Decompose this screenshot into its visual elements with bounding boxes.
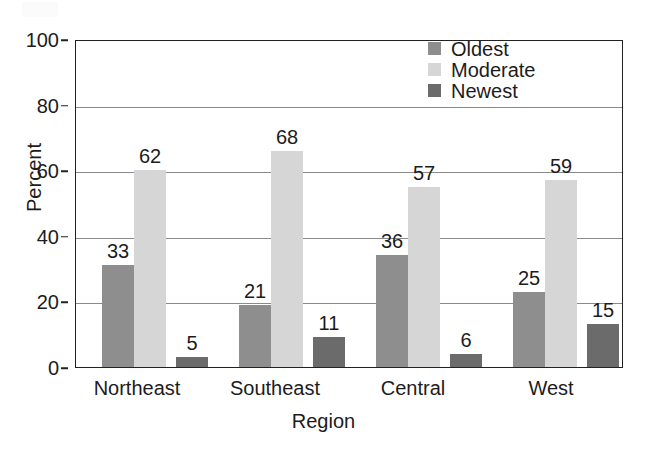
legend-item-newest[interactable]: Newest bbox=[428, 80, 578, 101]
x-tick-label-southeast: Southeast bbox=[230, 377, 320, 400]
y-axis-title: Percent bbox=[23, 108, 46, 248]
bar-west-newest bbox=[587, 324, 619, 367]
legend-swatch-icon-moderate bbox=[428, 63, 441, 76]
x-tick-label-central: Central bbox=[381, 377, 445, 400]
bar-value-label-west-newest: 15 bbox=[592, 299, 614, 322]
bar-value-label-northeast-moderate: 62 bbox=[139, 145, 161, 168]
bar-west-oldest bbox=[513, 292, 545, 367]
bar-southeast-moderate bbox=[271, 151, 303, 367]
x-axis: Northeast Southeast Central West bbox=[75, 377, 623, 405]
y-tick-mark-20 bbox=[61, 302, 68, 304]
y-tick-label-20: 20 bbox=[37, 291, 59, 314]
bar-northeast-oldest bbox=[102, 265, 134, 367]
legend-item-oldest[interactable]: Oldest bbox=[428, 38, 578, 59]
y-tick-mark-40 bbox=[61, 236, 68, 238]
bar-central-oldest bbox=[376, 255, 408, 367]
y-tick-mark-80 bbox=[61, 105, 68, 107]
legend-item-moderate[interactable]: Moderate bbox=[428, 59, 578, 80]
bar-value-label-west-moderate: 59 bbox=[550, 155, 572, 178]
bar-value-label-southeast-moderate: 68 bbox=[276, 126, 298, 149]
bar-value-label-northeast-oldest: 33 bbox=[107, 240, 129, 263]
bar-west-moderate bbox=[545, 180, 577, 367]
x-tick-label-northeast: Northeast bbox=[94, 377, 181, 400]
bar-chart-figure: 100 80 60 40 20 0 Percent 33625216811365… bbox=[0, 0, 647, 459]
y-tick-mark-0 bbox=[61, 367, 68, 369]
y-tick-label-100: 100 bbox=[26, 29, 59, 52]
x-tick-label-west: West bbox=[528, 377, 573, 400]
legend-label-moderate: Moderate bbox=[451, 60, 536, 80]
bar-value-label-northeast-newest: 5 bbox=[186, 332, 197, 355]
x-axis-title: Region bbox=[0, 410, 647, 433]
legend-swatch-icon-oldest bbox=[428, 42, 441, 55]
bar-northeast-moderate bbox=[134, 170, 166, 367]
bar-southeast-oldest bbox=[239, 305, 271, 367]
bar-value-label-central-newest: 6 bbox=[460, 329, 471, 352]
legend: Oldest Moderate Newest bbox=[428, 38, 578, 101]
bar-central-moderate bbox=[408, 187, 440, 367]
bar-value-label-southeast-newest: 11 bbox=[319, 312, 340, 335]
legend-swatch-icon-newest bbox=[428, 84, 441, 97]
y-tick-mark-100 bbox=[61, 39, 68, 41]
bar-southeast-newest bbox=[313, 337, 345, 367]
bar-central-newest bbox=[450, 354, 482, 367]
legend-label-newest: Newest bbox=[451, 81, 518, 101]
y-tick-mark-60 bbox=[61, 170, 68, 172]
bar-value-label-west-oldest: 25 bbox=[518, 267, 540, 290]
bar-value-label-central-moderate: 57 bbox=[413, 162, 435, 185]
legend-label-oldest: Oldest bbox=[451, 39, 509, 59]
bar-northeast-newest bbox=[176, 357, 208, 367]
gridline-80 bbox=[76, 107, 622, 108]
y-tick-label-0: 0 bbox=[48, 357, 59, 380]
bar-value-label-southeast-oldest: 21 bbox=[244, 280, 266, 303]
bar-value-label-central-oldest: 36 bbox=[381, 230, 403, 253]
